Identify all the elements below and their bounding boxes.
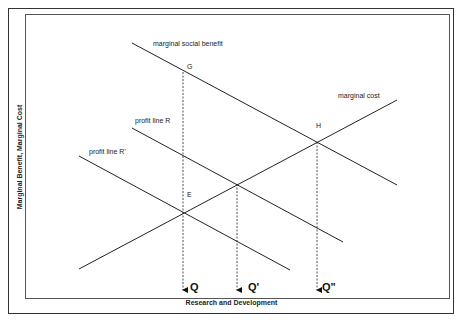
label-marginal-social-benefit: marginal social benefit: [153, 40, 223, 47]
marginal-social-benefit-line: [132, 43, 397, 185]
label-marginal-cost: marginal cost: [338, 92, 380, 99]
x-axis-label: Research and Development: [0, 299, 463, 306]
quantity-q-label: Q: [190, 281, 199, 293]
label-profit-line-r-prime: profit line R': [89, 148, 126, 155]
quantity-q-double-prime-label: Q": [322, 281, 336, 293]
marginal-cost-line: [79, 100, 397, 269]
quantity-q-prime-label: Q': [248, 281, 259, 293]
label-profit-line-r: profit line R: [135, 117, 170, 124]
point-e-label: E: [187, 191, 192, 198]
y-axis-label: Marginal Benefit, Marginal Cost: [16, 105, 23, 210]
profit-line-r-prime: [79, 156, 290, 270]
point-g-label: G: [187, 63, 192, 70]
point-h-label: H: [316, 122, 321, 129]
diagram-lines: [0, 0, 463, 323]
